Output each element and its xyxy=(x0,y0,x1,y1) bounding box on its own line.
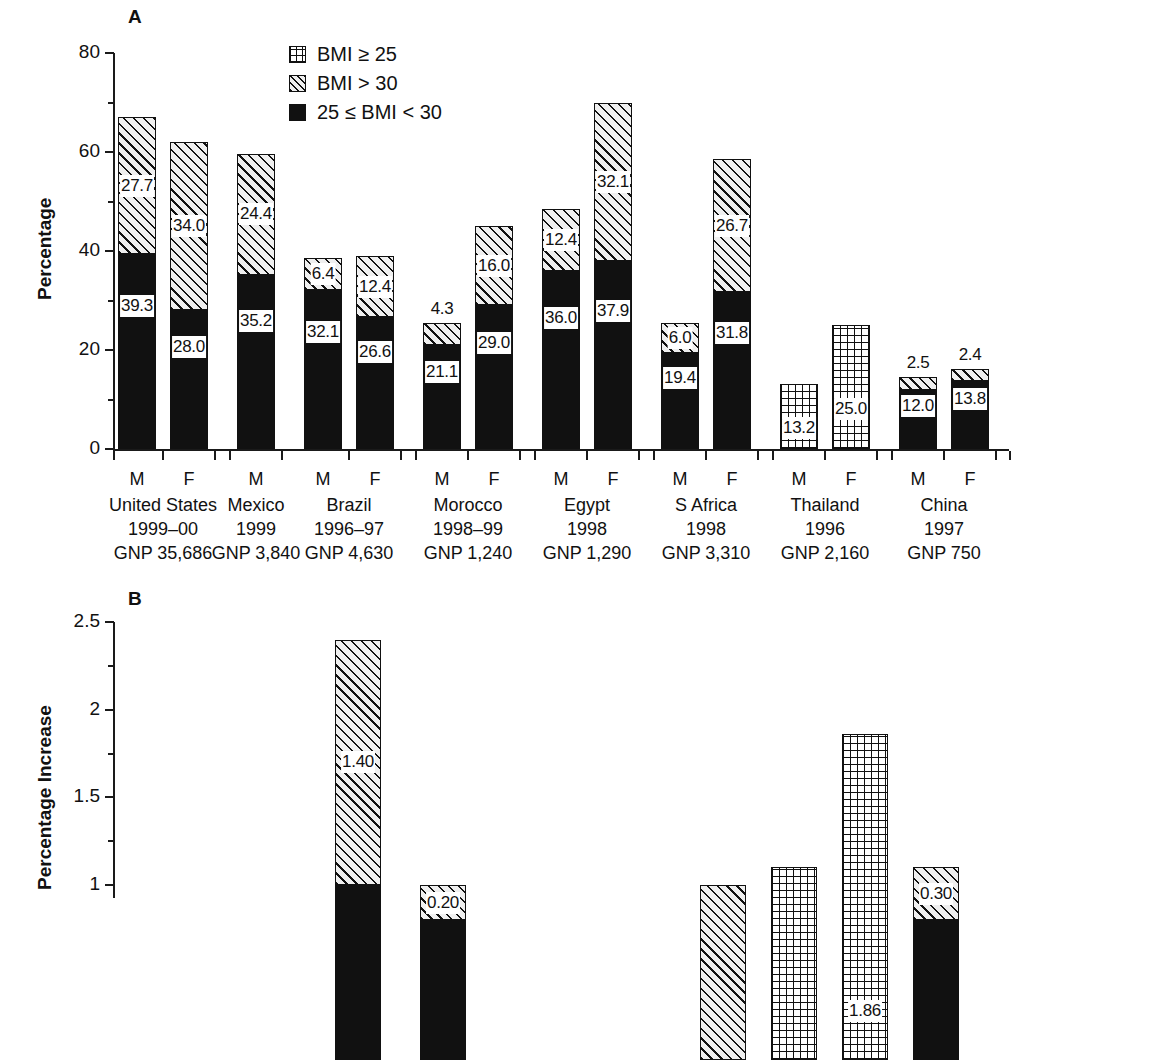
panel-a-y-minor-tick xyxy=(108,399,114,401)
legend-item-0: BMI ≥ 25 xyxy=(289,40,442,69)
x-axis-country-block-mexico: Mexico1999GNP 3,840 xyxy=(212,493,301,565)
panel-a-y-tick-label: 40 xyxy=(52,239,100,261)
bar-egypt-f: 32.137.9 xyxy=(594,103,632,450)
x-axis-sex-label: M xyxy=(792,469,807,490)
bar-segment-bmi-25-30: 35.2 xyxy=(237,275,275,449)
panel-b-segment-solid xyxy=(335,885,381,1060)
country-gnp: GNP 1,240 xyxy=(424,541,513,565)
panel-a-y-tick-label: 20 xyxy=(52,338,100,360)
bar-morocco-f: 16.029.0 xyxy=(475,226,513,449)
legend-item-label: BMI > 30 xyxy=(317,72,398,95)
bar-segment-bmi-gt-30: 27.7 xyxy=(118,117,156,254)
bar-united-states-m: 27.739.3 xyxy=(118,117,156,449)
bar-segment-value: 37.9 xyxy=(596,300,630,322)
legend-item-1: BMI > 30 xyxy=(289,69,442,98)
panel-a-x-tick xyxy=(876,451,878,460)
bar-segment-value: 13.8 xyxy=(953,388,987,410)
bar-s-africa-m: 6.019.4 xyxy=(661,323,699,449)
legend-item-label: BMI ≥ 25 xyxy=(317,43,397,66)
bar-brazil-m: 6.432.1 xyxy=(304,258,342,449)
bar-mexico-m: 24.435.2 xyxy=(237,154,275,449)
bar-segment-value: 36.0 xyxy=(544,307,578,329)
country-year: 1999 xyxy=(212,517,301,541)
bar-segment-value: 21.1 xyxy=(425,361,459,383)
panel-a-letter: A xyxy=(128,6,142,28)
country-gnp: GNP 3,840 xyxy=(212,541,301,565)
panel-b-segment-value: 1.40 xyxy=(341,751,375,773)
x-axis-sex-label: M xyxy=(911,469,926,490)
bar-segment-value: 31.8 xyxy=(715,322,749,344)
panel-b-y-axis xyxy=(113,622,115,898)
bar-morocco-m: 4.321.1 xyxy=(423,323,461,449)
panel-b-y-tick xyxy=(105,884,114,886)
panel-a-y-tick-label: 0 xyxy=(52,437,100,459)
panel-b-y-tick xyxy=(105,621,114,623)
country-name: Mexico xyxy=(212,493,301,517)
country-gnp: GNP 2,160 xyxy=(781,541,870,565)
bar-segment-value: 27.7 xyxy=(120,175,154,197)
panel-b-segment-hatch: 0.30 xyxy=(913,867,959,920)
country-name: China xyxy=(907,493,981,517)
x-axis-country-block-thailand: Thailand1996GNP 2,160 xyxy=(781,493,870,565)
panel-b-y-tick-label: 2.5 xyxy=(42,610,100,632)
bar-segment-value: 28.0 xyxy=(172,336,206,358)
panel-a-x-tick xyxy=(229,451,231,460)
panel-a-x-tick xyxy=(113,451,115,460)
bar-china-f: 2.413.8 xyxy=(951,369,989,449)
panel-b-segment-hatch: 1.40 xyxy=(335,640,381,885)
panel-a-y-minor-tick xyxy=(108,300,114,302)
bar-s-africa-f: 26.731.8 xyxy=(713,159,751,449)
legend-item-label: 25 ≤ BMI < 30 xyxy=(317,101,442,124)
panel-a-x-tick xyxy=(534,451,536,460)
bar-segment-value: 13.2 xyxy=(782,417,816,439)
bar-segment-bmi-25-30: 28.0 xyxy=(170,310,208,449)
bar-segment-value: 35.2 xyxy=(239,310,273,332)
panel-b-y-minor-tick xyxy=(108,840,114,842)
country-year: 1996 xyxy=(781,517,870,541)
panel-a-x-tick xyxy=(824,451,826,460)
panel-b-segment-value: 0.20 xyxy=(426,892,460,914)
bar-segment-bmi-gt-30: 34.0 xyxy=(170,142,208,310)
bar-segment-bmi-gt-30: 26.7 xyxy=(713,159,751,291)
panel-a-x-tick xyxy=(943,451,945,460)
bar-segment-value: 29.0 xyxy=(477,332,511,354)
country-name: United States xyxy=(109,493,217,517)
x-axis-sex-label: F xyxy=(489,469,500,490)
country-gnp: GNP 3,310 xyxy=(662,541,751,565)
x-axis-sex-label: M xyxy=(316,469,331,490)
country-year: 1998 xyxy=(662,517,751,541)
x-axis-country-block-united-states: United States1999–00GNP 35,686 xyxy=(109,493,217,565)
country-year: 1996–97 xyxy=(305,517,394,541)
country-gnp: GNP 4,630 xyxy=(305,541,394,565)
panel-a-x-axis xyxy=(113,449,1009,451)
x-axis-sex-label: F xyxy=(846,469,857,490)
bar-egypt-m: 12.436.0 xyxy=(542,209,580,449)
bar-segment-bmi-ge-25: 25.0 xyxy=(832,325,870,449)
panel-b-y-tick-label: 1.5 xyxy=(42,785,100,807)
x-axis-country-block-morocco: Morocco1998–99GNP 1,240 xyxy=(424,493,513,565)
country-name: S Africa xyxy=(662,493,751,517)
bar-segment-bmi-gt-30: 6.4 xyxy=(304,258,342,290)
panel-a-x-tick xyxy=(891,451,893,460)
panel-b-bar-10 xyxy=(771,867,817,918)
panel-a-y-minor-tick xyxy=(108,201,114,203)
country-name: Egypt xyxy=(543,493,632,517)
bar-segment-value: 6.4 xyxy=(311,263,336,285)
bar-united-states-f: 34.028.0 xyxy=(170,142,208,449)
panel-a-y-tick xyxy=(105,250,114,252)
panel-a-x-tick xyxy=(415,451,417,460)
bar-segment-value: 39.3 xyxy=(120,295,154,317)
panel-a-x-tick xyxy=(467,451,469,460)
hatch-swatch-icon xyxy=(289,75,306,92)
bar-segment-value: 24.4 xyxy=(239,203,273,225)
panel-a-x-tick xyxy=(653,451,655,460)
bar-segment-bmi-25-30: 37.9 xyxy=(594,261,632,449)
panel-a-x-tick xyxy=(638,451,640,460)
bar-segment-bmi-gt-30 xyxy=(899,377,937,389)
panel-b-bar-9 xyxy=(700,885,746,918)
bar-segment-bmi-25-30: 29.0 xyxy=(475,305,513,449)
panel-b-bar-12: 0.30 xyxy=(913,867,959,918)
panel-a-y-tick-label: 80 xyxy=(52,41,100,63)
panel-b-segment-solid xyxy=(913,920,959,1060)
panel-b-y-tick xyxy=(105,709,114,711)
